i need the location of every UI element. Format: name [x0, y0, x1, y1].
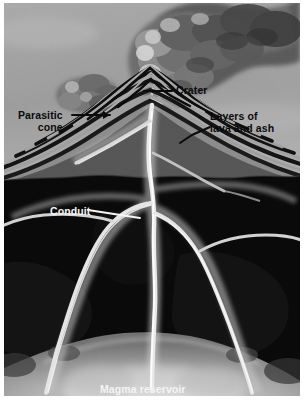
- label-layers-line1: Layers of: [210, 110, 258, 122]
- label-magma-reservoir: Magma reservoir: [100, 384, 186, 396]
- film-grain-overlay: [4, 3, 300, 396]
- label-layers-line2: lava and ash: [210, 122, 274, 134]
- label-conduit: Conduit: [50, 206, 90, 218]
- label-layers-of-lava-and-ash: Layers oflava and ash: [210, 111, 274, 134]
- label-parasitic-line1: Parasitic: [18, 109, 63, 121]
- volcano-diagram-figure: Crater Layers oflava and ash Parasiticco…: [0, 0, 304, 414]
- label-parasitic-line2: cone: [38, 121, 63, 133]
- figure-caption-cutoff: [4, 404, 300, 414]
- diagram-canvas: [4, 3, 300, 396]
- label-parasitic-cone: Parasiticcone: [18, 110, 63, 133]
- label-crater: Crater: [176, 85, 208, 97]
- diagram-plate: Crater Layers oflava and ash Parasiticco…: [4, 3, 300, 396]
